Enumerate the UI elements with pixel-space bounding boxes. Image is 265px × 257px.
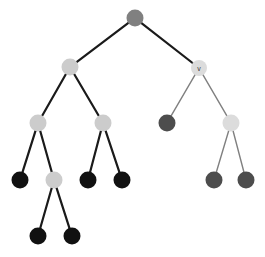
tree-node[interactable] bbox=[238, 172, 255, 189]
tree-node[interactable] bbox=[46, 172, 63, 189]
tree-node[interactable] bbox=[191, 60, 207, 76]
tree-edge bbox=[74, 73, 100, 117]
tree-node[interactable] bbox=[114, 172, 131, 189]
tree-edge bbox=[40, 187, 52, 230]
tree-node[interactable] bbox=[127, 10, 144, 27]
tree-diagram-figure: v bbox=[0, 0, 265, 257]
tree-node[interactable] bbox=[206, 172, 223, 189]
tree-node[interactable] bbox=[223, 115, 240, 132]
tree-edge bbox=[171, 74, 196, 117]
tree-edge bbox=[22, 130, 36, 174]
tree-edge bbox=[90, 130, 101, 173]
tree-node[interactable] bbox=[30, 115, 47, 132]
tree-edge bbox=[216, 130, 229, 174]
tree-node[interactable] bbox=[30, 228, 47, 245]
tree-node[interactable] bbox=[12, 172, 29, 189]
tree-node[interactable] bbox=[64, 228, 81, 245]
tree-node[interactable] bbox=[95, 115, 112, 132]
tree-edge-layer bbox=[22, 22, 244, 229]
tree-edge bbox=[40, 130, 52, 174]
tree-edge bbox=[76, 22, 130, 63]
tree-node-layer bbox=[12, 10, 255, 245]
tree-edge bbox=[105, 130, 120, 174]
tree-node[interactable] bbox=[62, 59, 79, 76]
tree-edge bbox=[202, 74, 227, 117]
tree-node[interactable] bbox=[159, 115, 176, 132]
tree-node[interactable] bbox=[80, 172, 97, 189]
tree-edge bbox=[233, 130, 244, 173]
tree-edge bbox=[56, 187, 70, 230]
tree-edge bbox=[141, 22, 194, 64]
tree-diagram-canvas: v bbox=[0, 0, 265, 257]
tree-edge bbox=[41, 73, 66, 117]
